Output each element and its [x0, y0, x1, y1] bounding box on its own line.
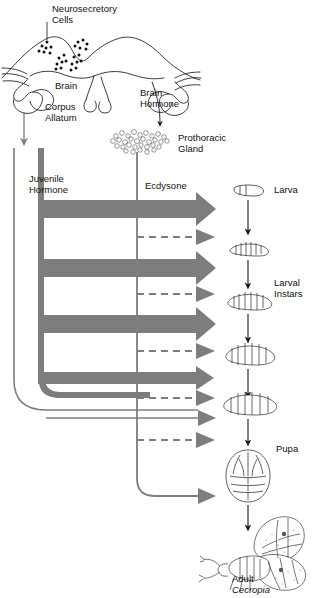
- jh-arrow-1: [38, 192, 216, 226]
- stage-pupa: [226, 450, 270, 502]
- neurosecretory-cell-dots: [38, 39, 89, 72]
- hormone-arrow-group: [38, 192, 216, 504]
- label-juvenile-hormone: Juvenile Hormone: [29, 173, 68, 195]
- label-pupa: Pupa: [276, 443, 298, 454]
- stage-instar-3: [228, 292, 272, 310]
- jh-arrow-5-head: [198, 410, 216, 426]
- label-larval-instars: Larval Instars: [274, 277, 303, 299]
- jh-arrow-4: [38, 366, 214, 390]
- label-ecdysone: Ecdysone: [145, 180, 187, 191]
- diagram-canvas: Neurosecretory Cells Brain Corpus Allatu…: [0, 0, 313, 598]
- label-brain-hormone: Brain Hormone: [140, 87, 179, 109]
- label-prothoracic-gland: Prothoracic Gland: [178, 132, 226, 154]
- jh-arrow-3: [38, 307, 216, 341]
- label-neurosecretory-cells: Neurosecretory Cells: [52, 3, 117, 25]
- prothoracic-gland-illustration: [111, 130, 170, 155]
- label-adult-species: Cecropia: [232, 584, 270, 595]
- stage-instar-5: [224, 392, 277, 415]
- jh-arrow-2: [38, 251, 216, 285]
- label-larva: Larva: [274, 184, 298, 195]
- label-brain: Brain: [55, 80, 77, 91]
- stage-instar-4: [226, 343, 275, 365]
- stage-larva: [234, 185, 264, 196]
- ecdysone-final-arrowhead: [198, 488, 216, 504]
- label-corpus-allatum: Corpus Allatum: [45, 101, 77, 123]
- label-adult: Adult: [232, 573, 254, 584]
- stage-instar-2: [230, 242, 269, 256]
